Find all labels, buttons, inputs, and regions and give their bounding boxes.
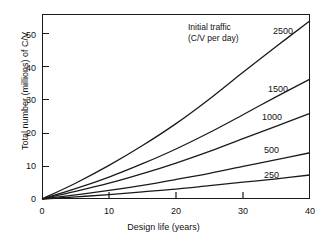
series-label-1500: 1500 — [268, 85, 288, 94]
ytick-label-0: 0 — [10, 195, 36, 204]
ytick-mark-30 — [43, 99, 49, 100]
xtick-label-40: 40 — [295, 207, 325, 216]
xtick-label-20: 20 — [161, 207, 191, 216]
ytick-mark-10 — [43, 166, 49, 167]
x-axis-title: Design life (years) — [0, 222, 327, 232]
series-label-2500: 2500 — [273, 27, 293, 36]
legend-title-line1: Initial traffic — [188, 22, 239, 33]
series-label-250: 250 — [264, 171, 279, 180]
ytick-mark-50 — [43, 33, 49, 34]
chart-figure: 0 10 20 30 40 50 0 10 20 30 40 Total num… — [0, 0, 327, 241]
series-label-1000: 1000 — [262, 113, 282, 122]
legend-title-line2: (C/V per day) — [188, 33, 239, 44]
xtick-label-0: 0 — [27, 207, 57, 216]
xtick-label-10: 10 — [94, 207, 124, 216]
series-label-500: 500 — [264, 146, 279, 155]
xtick-label-30: 30 — [228, 207, 258, 216]
y-axis-title: Total number (millions) of C/V — [20, 6, 30, 176]
legend-title: Initial traffic (C/V per day) — [188, 22, 239, 44]
ytick-mark-20 — [43, 133, 49, 134]
ytick-mark-40 — [43, 66, 49, 67]
curve-1500 — [42, 79, 310, 199]
